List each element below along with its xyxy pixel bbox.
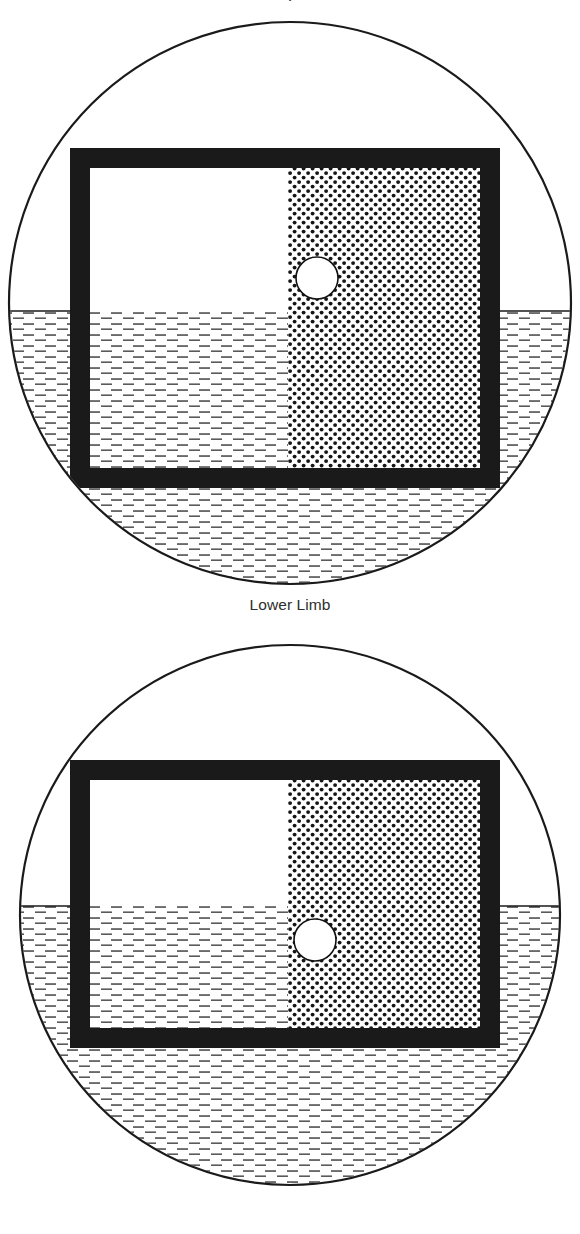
bubble-lumen [296, 257, 338, 299]
figure-root: y [0, 0, 580, 1234]
right-chamber-stipple [288, 780, 480, 1028]
right-chamber [288, 780, 480, 1028]
right-chamber [288, 168, 480, 468]
left-chamber [90, 780, 288, 1028]
caption-lower-limb: Lower Limb [0, 596, 580, 614]
bubble-lumen [294, 919, 336, 961]
panel-upper-limb: Upper Limb [0, 622, 580, 1192]
left-chamber-water [90, 311, 288, 468]
lower-limb-diagram [0, 0, 580, 600]
left-chamber-water [90, 906, 288, 1028]
upper-limb-diagram [0, 622, 580, 1202]
panel-lower-limb: Lower Limb [0, 0, 580, 600]
left-chamber [90, 168, 288, 468]
right-chamber-stipple [288, 168, 480, 468]
